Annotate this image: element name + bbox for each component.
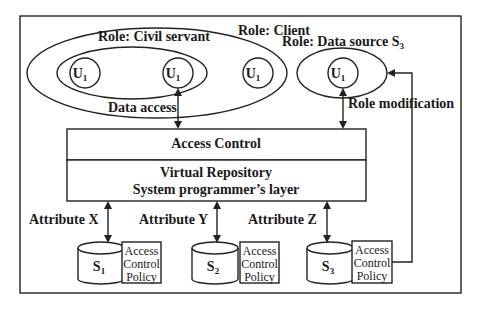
svg-text:S3: S3 <box>322 259 335 276</box>
svg-text:Access: Access <box>125 244 159 258</box>
data-source-s3: S3 Access Control Policy <box>307 241 392 284</box>
svg-text:Policy: Policy <box>126 270 157 284</box>
user-node-3: U1 <box>243 58 273 88</box>
svg-text:U1: U1 <box>246 66 261 83</box>
role-data-source-label: Role: Data source S3 <box>282 34 405 51</box>
svg-text:Access: Access <box>243 244 277 258</box>
data-access-label: Data access <box>108 100 177 115</box>
virtual-repository-label: Virtual Repository <box>160 165 272 180</box>
data-source-s1: S1 Access Control Policy <box>78 242 161 284</box>
svg-text:U1: U1 <box>331 66 346 83</box>
svg-text:Control: Control <box>354 256 391 270</box>
svg-text:S1: S1 <box>93 259 106 276</box>
svg-text:Access: Access <box>355 243 389 257</box>
svg-text:Policy: Policy <box>244 270 275 284</box>
attribute-y-label: Attribute Y <box>139 212 208 227</box>
svg-text:Control: Control <box>123 257 160 271</box>
svg-text:S2: S2 <box>207 259 220 276</box>
access-control-label: Access Control <box>171 136 261 151</box>
role-civil-servant-label: Role: Civil servant <box>98 29 210 44</box>
svg-text:Control: Control <box>241 257 278 271</box>
user-node-1: U1 <box>70 58 100 88</box>
svg-text:U1: U1 <box>73 66 88 83</box>
data-source-s2: S2 Access Control Policy <box>192 242 279 284</box>
svg-text:Policy: Policy <box>357 269 388 283</box>
user-node-2: U1 <box>163 58 193 88</box>
svg-text:U1: U1 <box>166 66 181 83</box>
role-modification-label: Role modification <box>348 96 454 111</box>
system-programmer-layer-label: System programmer’s layer <box>133 182 300 197</box>
user-node-4: U1 <box>328 58 358 88</box>
access-control-diagram: Role: Civil servant Role: Client Role: D… <box>0 0 481 309</box>
attribute-z-label: Attribute Z <box>248 212 317 227</box>
attribute-x-label: Attribute X <box>29 212 99 227</box>
